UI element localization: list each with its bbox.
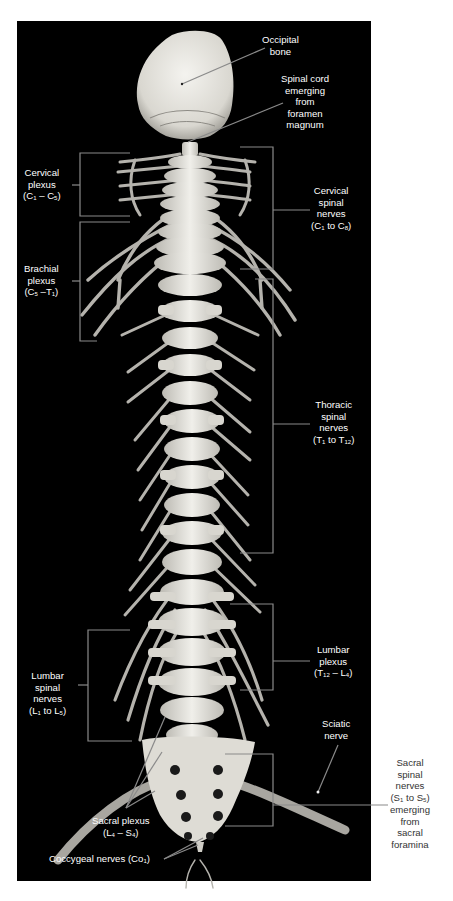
label-lumbar-plexus: Lumbar plexus (T12 – L4): [314, 644, 352, 679]
label-line: plexus: [24, 275, 59, 287]
label-line: foramina: [390, 839, 430, 851]
label-line: Cervical: [23, 167, 61, 179]
label-line: nerves: [29, 693, 66, 705]
label-cervical-spinal-nerves: Cervical spinal nerves (C1 to C8): [311, 185, 351, 231]
label-line: Sacral plexus: [92, 815, 150, 827]
label-range: (C5 –T1): [24, 286, 59, 298]
label-line: Thoracic: [313, 399, 354, 411]
label-line: magnum: [281, 119, 329, 131]
label-range: (L4 – S4): [92, 827, 150, 839]
label-brachial-plexus: Brachial plexus (C5 –T1): [24, 263, 59, 298]
label-range: (C1 – C5): [23, 190, 61, 202]
label-line: spinal: [29, 682, 66, 694]
label-line: sacral: [390, 827, 430, 839]
label-range: Coccygeal nerves (Co1): [49, 853, 150, 865]
label-line: Lumbar: [29, 670, 66, 682]
label-line: nerves: [313, 422, 354, 434]
label-line: Spinal cord: [281, 73, 329, 85]
label-line: emerging: [390, 804, 430, 816]
label-line: Cervical: [311, 185, 351, 197]
label-line: spinal: [311, 197, 351, 209]
label-line: spinal: [390, 769, 430, 781]
label-line: nerves: [311, 208, 351, 220]
label-line: Lumbar: [314, 644, 352, 656]
label-sacral-plexus: Sacral plexus (L4 – S4): [92, 815, 150, 838]
label-line: Occipital: [262, 34, 299, 46]
label-thoracic-spinal-nerves: Thoracic spinal nerves (T1 to T12): [313, 399, 354, 445]
label-cervical-plexus: Cervical plexus (C1 – C5): [23, 167, 61, 202]
label-coccygeal-nerves: Coccygeal nerves (Co1): [49, 853, 150, 865]
label-line: nerve: [322, 730, 350, 742]
label-sacral-spinal-nerves: Sacral spinal nerves (S1 to S5) emerging…: [390, 757, 430, 851]
label-lumbar-spinal-nerves: Lumbar spinal nerves (L1 to L5): [29, 670, 66, 716]
label-occipital-bone: Occipital bone: [262, 34, 299, 57]
label-line: Sacral: [390, 757, 430, 769]
label-line: emerging: [281, 85, 329, 97]
label-line: nerves: [390, 780, 430, 792]
spine-illustration: [0, 0, 453, 901]
label-range: (T12 – L4): [314, 667, 352, 679]
label-range: (T1 to T12): [313, 434, 354, 446]
label-line: spinal: [313, 411, 354, 423]
label-range: (S1 to S5): [390, 792, 430, 804]
label-line: Brachial: [24, 263, 59, 275]
label-line: from: [390, 816, 430, 828]
label-line: plexus: [314, 656, 352, 668]
label-line: bone: [262, 46, 299, 58]
label-line: from: [281, 96, 329, 108]
occipital-bone-shape: [137, 31, 234, 140]
label-range: (L1 to L5): [29, 705, 66, 717]
label-range: (C1 to C8): [311, 220, 351, 232]
label-line: foramen: [281, 108, 329, 120]
label-sciatic-nerve: Sciatic nerve: [322, 718, 350, 741]
label-line: plexus: [23, 179, 61, 191]
label-spinal-cord: Spinal cord emerging from foramen magnum: [281, 73, 329, 131]
label-line: Sciatic: [322, 718, 350, 730]
